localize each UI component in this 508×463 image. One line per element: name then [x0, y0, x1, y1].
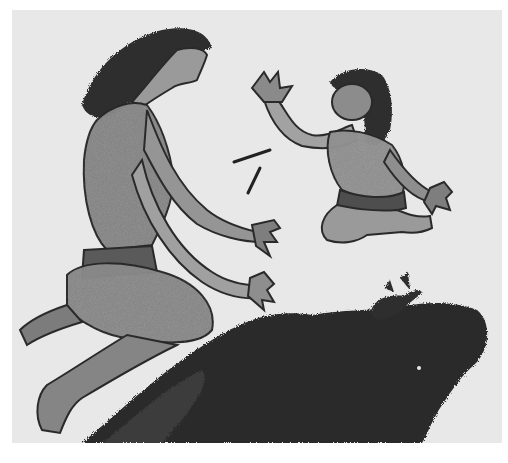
sticks	[234, 150, 270, 193]
hand-upper	[252, 220, 280, 256]
child-hand-right	[424, 182, 452, 214]
painting: Grayscale ink-wash illustration: a long-…	[12, 10, 502, 443]
child-hand-raised	[252, 72, 292, 102]
child-figure	[252, 69, 452, 242]
hand-lower	[248, 272, 274, 310]
